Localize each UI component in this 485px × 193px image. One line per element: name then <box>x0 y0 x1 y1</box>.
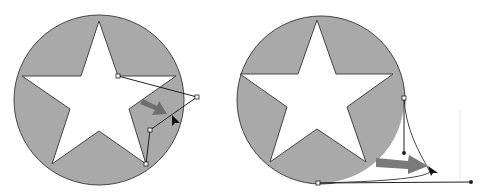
anchor-point[interactable] <box>316 181 320 185</box>
anchor-point[interactable] <box>148 128 152 132</box>
anchor-point[interactable] <box>144 162 148 166</box>
handle-point[interactable] <box>469 180 473 184</box>
anchor-point[interactable] <box>116 74 120 78</box>
anchor-point-moved[interactable] <box>195 95 199 99</box>
cursor-icon <box>428 166 438 176</box>
left-panel <box>14 15 199 185</box>
anchor-point[interactable] <box>402 96 406 100</box>
right-panel <box>237 16 473 185</box>
handle-point[interactable] <box>402 151 406 155</box>
illustration <box>0 0 485 193</box>
